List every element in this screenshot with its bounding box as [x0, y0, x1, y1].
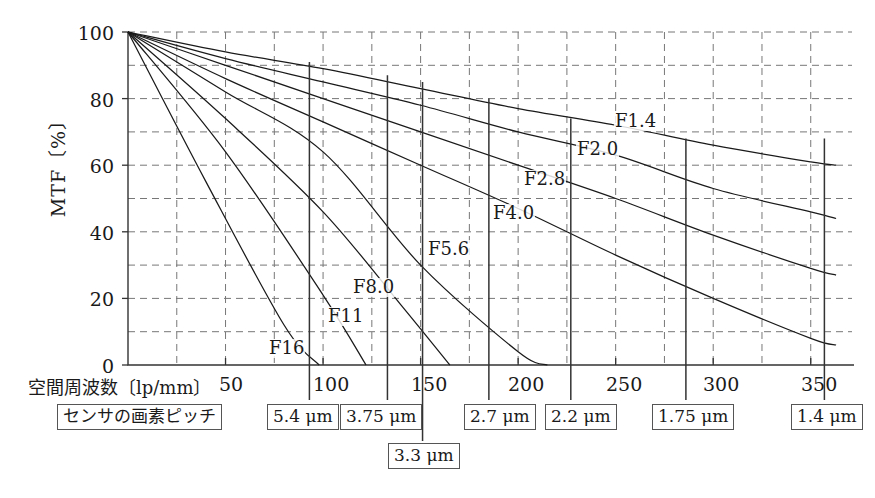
pitch-box-2-7: 2.7 μm [464, 404, 536, 430]
mtf-curve [128, 32, 836, 275]
x-tick-50: 50 [219, 373, 243, 395]
figure-canvas: MTF〔%〕 100 80 60 40 20 0 空間周波数〔lp/mm〕 50… [0, 0, 875, 498]
curve-label-f1-4: F1.4 [614, 112, 657, 131]
y-axis-title: MTF〔%〕 [43, 94, 70, 234]
y-tick-40: 40 [68, 222, 114, 244]
x-axis-title: 空間周波数〔lp/mm〕 [28, 373, 211, 399]
curve-label-f11: F11 [327, 307, 364, 326]
x-tick-200: 200 [508, 373, 544, 395]
y-tick-60: 60 [68, 155, 114, 177]
y-tick-80: 80 [68, 89, 114, 111]
curve-label-f5-6: F5.6 [427, 240, 470, 259]
curve-label-f8-0: F8.0 [352, 278, 395, 297]
curve-label-f4-0: F4.0 [492, 204, 535, 223]
pitch-box-3-75: 3.75 μm [340, 404, 422, 430]
pitch-box-1-4: 1.4 μm [791, 404, 863, 430]
pitch-box-2-2: 2.2 μm [545, 404, 617, 430]
x-tick-250: 250 [606, 373, 642, 395]
x-tick-350: 350 [801, 373, 837, 395]
curve-label-f2-0: F2.0 [576, 140, 619, 159]
pitch-box-3-3: 3.3 μm [388, 443, 460, 469]
x-tick-100: 100 [313, 373, 349, 395]
pitch-box-5-4: 5.4 μm [267, 404, 339, 430]
y-tick-100: 100 [68, 22, 114, 44]
curve-label-f16: F16 [268, 339, 305, 358]
x-tick-300: 300 [703, 373, 739, 395]
x-tick-150: 150 [411, 373, 447, 395]
curve-label-f2-8: F2.8 [523, 170, 566, 189]
pitch-row-label: センサの画素ピッチ [57, 404, 222, 430]
pitch-box-1-75: 1.75 μm [652, 404, 734, 430]
mtf-curve [128, 32, 836, 218]
y-tick-20: 20 [68, 288, 114, 310]
